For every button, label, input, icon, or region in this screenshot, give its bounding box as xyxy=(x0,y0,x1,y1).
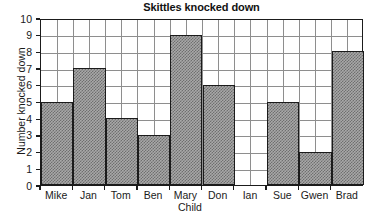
plot-area xyxy=(40,19,363,186)
y-axis-tick-label: 3 xyxy=(6,130,32,140)
y-axis-tick-label: 1 xyxy=(6,164,32,174)
page-title: Skittles knocked down xyxy=(40,1,363,13)
x-axis-tick-mark xyxy=(72,186,73,190)
bar-jan xyxy=(73,68,105,185)
y-axis-tick-label: 2 xyxy=(6,147,32,157)
y-axis-tick-label: 10 xyxy=(6,14,32,24)
bar-ben xyxy=(138,135,170,185)
y-axis-tick-label: 7 xyxy=(6,64,32,74)
x-axis-tick-mark xyxy=(233,186,234,190)
bar-mary xyxy=(170,35,202,185)
y-axis-tick-label: 9 xyxy=(6,30,32,40)
x-axis-tick-mark xyxy=(39,186,40,190)
bar-sue xyxy=(267,102,299,186)
bar-don xyxy=(203,85,235,185)
x-axis-tick-mark xyxy=(298,186,299,190)
x-axis-tick-label: Brad xyxy=(325,189,369,201)
bar-brad xyxy=(332,51,364,185)
bar-series xyxy=(41,20,362,185)
x-axis-title: Child xyxy=(40,201,340,213)
y-axis-tick-label: 6 xyxy=(6,80,32,90)
x-axis-tick-mark xyxy=(330,186,331,190)
y-axis-tick-label: 0 xyxy=(6,181,32,191)
chart-figure: Skittles knocked down Number knocked dow… xyxy=(0,0,374,220)
y-axis-tick-label: 4 xyxy=(6,114,32,124)
x-axis-tick-mark xyxy=(136,186,137,190)
x-axis-tick-mark xyxy=(265,186,266,190)
bar-gwen xyxy=(299,152,331,185)
x-axis-tick-mark xyxy=(104,186,105,190)
y-axis-tick-label: 8 xyxy=(6,47,32,57)
y-axis-tick-label: 5 xyxy=(6,97,32,107)
bar-tom xyxy=(106,118,138,185)
bar-mike xyxy=(41,102,73,186)
x-axis-tick-mark xyxy=(201,186,202,190)
x-axis-tick-mark xyxy=(169,186,170,190)
